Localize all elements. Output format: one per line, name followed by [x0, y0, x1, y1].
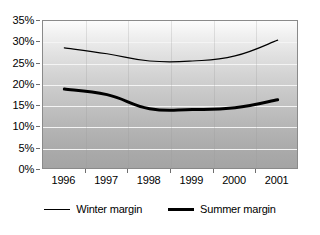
x-axis-tick-mark [127, 169, 128, 173]
legend-item-label: Winter margin [76, 203, 142, 215]
x-axis-tick-mark [255, 169, 256, 173]
x-axis-tick-label: 1996 [42, 174, 85, 192]
y-axis-tick-label: 15% [13, 99, 34, 111]
y-axis-tick-label: 25% [13, 57, 34, 69]
y-axis-tick-mark [36, 126, 40, 127]
y-axis-tick-mark [36, 105, 40, 106]
x-axis-tick-mark [85, 169, 86, 173]
x-axis-tick-label: 1999 [170, 174, 213, 192]
legend-item[interactable]: Summer margin [168, 203, 276, 215]
line-chart: 0%5%10%15%20%25%30%35% 19961997199819992… [0, 0, 320, 235]
x-axis: 199619971998199920002001 [42, 174, 298, 192]
legend-line-swatch-icon [44, 209, 70, 210]
legend-item-label: Summer margin [200, 203, 276, 215]
y-axis-tick-label: 5% [19, 142, 35, 154]
y-axis-tick-mark [36, 41, 40, 42]
y-axis-tick-label: 30% [13, 35, 34, 47]
y-axis-tick-label: 20% [13, 78, 34, 90]
x-axis-tick-label: 2001 [255, 174, 298, 192]
y-axis-tick-mark [36, 63, 40, 64]
plot-area [42, 20, 298, 169]
y-axis-tick-mark [36, 169, 40, 170]
x-axis-tick-label: 1998 [127, 174, 170, 192]
y-axis: 0%5%10%15%20%25%30%35% [0, 0, 40, 235]
x-axis-tick-label: 2000 [213, 174, 256, 192]
series-line-2 [64, 89, 277, 110]
x-axis-tick-mark [170, 169, 171, 173]
y-axis-tick-label: 10% [13, 120, 34, 132]
series-lines [43, 21, 298, 169]
y-axis-tick-mark [36, 148, 40, 149]
legend-item[interactable]: Winter margin [44, 203, 142, 215]
chart-legend: Winter marginSummer margin [0, 203, 320, 215]
series-line-1 [64, 40, 277, 62]
y-axis-tick-mark [36, 20, 40, 21]
y-axis-tick-mark [36, 84, 40, 85]
x-axis-tick-label: 1997 [85, 174, 128, 192]
x-axis-tick-mark [213, 169, 214, 173]
legend-line-swatch-icon [168, 208, 194, 211]
y-axis-tick-label: 0% [19, 163, 35, 175]
y-axis-tick-label: 35% [13, 14, 34, 26]
